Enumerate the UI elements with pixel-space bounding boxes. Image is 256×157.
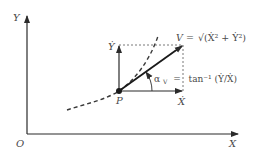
velocity-label: V = √(Ẋ² + Ẏ²): [176, 32, 246, 43]
angle-arc: [146, 72, 152, 91]
y-axis-label: Y: [13, 12, 21, 23]
angle-symbol: α: [154, 74, 160, 84]
x-dot-label: Ẋ: [177, 96, 186, 107]
angle-expression: tan⁻¹ (Ẏ/Ẋ): [189, 73, 237, 84]
angle-equals: =: [173, 74, 181, 84]
point-p-label: P: [115, 95, 123, 106]
origin-label: O: [16, 138, 24, 149]
angle-subscript: V: [162, 78, 168, 85]
angle-label: α V = tan⁻¹ (Ẏ/Ẋ): [154, 73, 237, 86]
velocity-diagram: O X Y P Ẏ Ẋ V = √(Ẋ² + Ẏ²) α V = tan⁻¹ (…: [0, 0, 256, 157]
point-p: [116, 88, 122, 94]
y-dot-label: Ẏ: [108, 41, 116, 52]
x-axis-label: X: [228, 138, 237, 149]
velocity-rhs: √(Ẋ² + Ẏ²): [198, 32, 246, 43]
velocity-lhs: V =: [176, 32, 194, 43]
